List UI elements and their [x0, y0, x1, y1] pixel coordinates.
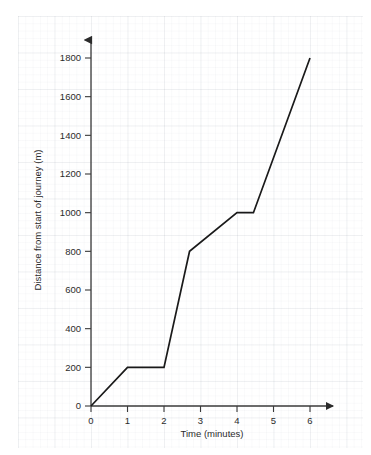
y-tick-label: 1200	[60, 168, 81, 179]
y-tick-label: 1800	[60, 52, 81, 63]
y-tick-label: 800	[65, 246, 81, 257]
y-tick-label: 0	[76, 400, 81, 411]
y-tick-label: 200	[65, 362, 81, 373]
y-tick-label: 600	[65, 284, 81, 295]
x-tick-label: 5	[271, 415, 276, 426]
y-tick-label: 1600	[60, 91, 81, 102]
x-axis-title: Time (minutes)	[181, 428, 244, 439]
x-tick-label: 2	[161, 415, 166, 426]
y-tick-label: 400	[65, 323, 81, 334]
chart-canvas: 020040060080010001200140016001800 012345…	[0, 0, 371, 455]
x-tick-label: 1	[125, 415, 130, 426]
x-tick-label: 3	[198, 415, 203, 426]
y-axis-title: Distance from start of journey (m)	[32, 150, 43, 291]
y-tick-label: 1000	[60, 207, 81, 218]
x-tick-label: 4	[234, 415, 239, 426]
x-tick-group: 0123456	[88, 406, 312, 426]
y-tick-group: 020040060080010001200140016001800	[60, 52, 91, 411]
data-line-journey	[91, 58, 310, 406]
y-tick-label: 1400	[60, 130, 81, 141]
distance-time-chart: 020040060080010001200140016001800 012345…	[0, 0, 371, 455]
data-series-group	[91, 58, 310, 406]
x-tick-label: 0	[88, 415, 93, 426]
x-tick-label: 6	[307, 415, 312, 426]
